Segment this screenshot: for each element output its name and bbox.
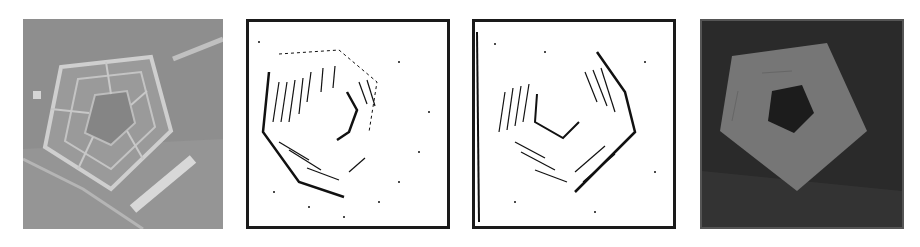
edge-map-1 — [246, 19, 450, 229]
segmentation-result — [700, 19, 904, 229]
edge-map-2 — [472, 19, 676, 229]
original-aerial-image — [23, 19, 223, 229]
